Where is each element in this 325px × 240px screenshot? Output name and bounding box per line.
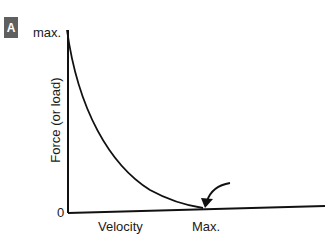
x-axis-title: Velocity bbox=[98, 219, 143, 234]
arrow-head-icon bbox=[201, 198, 213, 208]
force-velocity-curve bbox=[67, 30, 203, 208]
x-max-label: Max. bbox=[192, 219, 220, 234]
origin-label: 0 bbox=[57, 205, 64, 220]
y-axis-title: Force (or load) bbox=[48, 77, 63, 162]
arrow-annotation bbox=[207, 183, 230, 201]
y-max-label: max. bbox=[33, 25, 61, 40]
